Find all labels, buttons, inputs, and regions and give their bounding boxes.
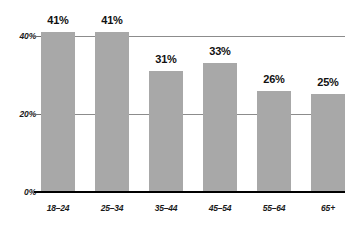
bar-25-34 (95, 32, 129, 192)
x-axis-baseline (41, 191, 345, 193)
x-axis-label-25-34: 25–34 (90, 203, 134, 213)
plot-area (41, 10, 345, 192)
bar-65-plus (311, 94, 345, 192)
bar-value-label-45-54: 33% (203, 45, 237, 57)
bar-55-64 (257, 91, 291, 192)
gridline-40 (41, 36, 345, 37)
bar-45-54 (203, 63, 237, 192)
x-axis-label-45-54: 45–54 (198, 203, 242, 213)
y-axis-tick-label-0: 0% (2, 187, 36, 197)
bar-value-label-18-24: 41% (41, 14, 75, 26)
gridline-20 (41, 114, 345, 115)
x-axis-label-55-64: 55–64 (252, 203, 296, 213)
x-axis-label-18-24: 18–24 (36, 203, 80, 213)
bar-value-label-55-64: 26% (257, 73, 291, 85)
bar-value-label-25-34: 41% (95, 14, 129, 26)
y-axis-tick-label-40: 40% (2, 31, 36, 41)
bar-value-label-35-44: 31% (149, 53, 183, 65)
bar-chart: 40% 20% 0% 41% 41% 31% 33% 26% 25% 18–24… (0, 0, 356, 228)
y-axis-tick-mark-40 (34, 36, 41, 37)
y-axis-tick-mark-0 (34, 191, 41, 193)
bar-value-label-65-plus: 25% (311, 76, 345, 88)
y-axis-tick-label-20: 20% (2, 109, 36, 119)
x-axis-label-35-44: 35–44 (144, 203, 188, 213)
x-axis-label-65-plus: 65+ (306, 203, 350, 213)
bar-18-24 (41, 32, 75, 192)
bar-35-44 (149, 71, 183, 192)
y-axis-tick-mark-20 (34, 114, 41, 115)
